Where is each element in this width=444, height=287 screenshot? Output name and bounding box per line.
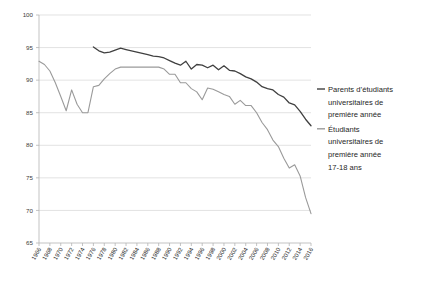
legend-label-1: 17-18 ans [328,163,362,172]
legend-label-1: première année [328,150,381,159]
line-chart: 6570758085909510019661968197019721974197… [0,0,444,287]
chart-container: 6570758085909510019661968197019721974197… [0,0,444,287]
y-axis-label: 65 [26,239,33,246]
y-axis-label: 80 [26,141,33,148]
legend-label-0: première année [328,110,381,119]
series-line-1 [39,61,311,213]
legend-label-1: universitaires de [328,137,383,146]
y-axis-label: 85 [26,109,33,116]
x-axis-label: 2016 [302,246,314,261]
y-axis-label: 75 [26,174,33,181]
y-axis-label: 95 [26,44,33,51]
y-axis-label: 100 [23,11,34,18]
legend-label-0: Parents d’étudiants [328,85,393,94]
legend-label-1: Étudiants [328,125,360,134]
series-line-0 [93,47,311,126]
y-axis-label: 70 [26,207,33,214]
legend-label-0: universitaires de [328,98,383,107]
y-axis-label: 90 [26,76,33,83]
